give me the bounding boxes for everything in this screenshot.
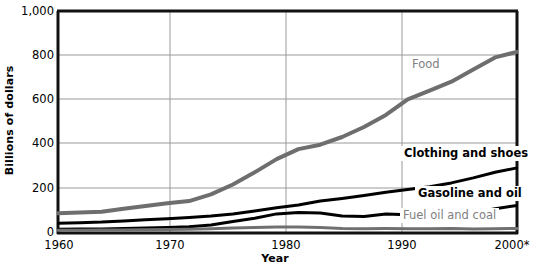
y-tick-400: 400	[8, 136, 54, 150]
series-group	[58, 52, 517, 230]
x-tick-1980: 1980	[271, 238, 300, 252]
x-axis-title-text: Year	[261, 252, 288, 265]
x-tick-1990: 1990	[387, 238, 416, 252]
series-label-food: Food	[409, 57, 443, 72]
x-tick-1970: 1970	[155, 238, 184, 252]
y-tick-200: 200	[8, 181, 54, 195]
y-axis-tick-labels: 1,000 800 600 400 200 0	[8, 0, 54, 266]
y-tick-600: 600	[8, 92, 54, 106]
series-label-fueloil: Fuel oil and coal	[400, 208, 499, 223]
x-tick-2000: 2000*	[494, 238, 529, 252]
series-label-gasoline: Gasoline and oil	[415, 186, 525, 201]
y-tick-1000: 1,000	[8, 4, 54, 18]
x-axis-title: Year	[0, 252, 536, 265]
y-tick-0: 0	[8, 225, 54, 239]
line-chart: Billions of dollars 1,000 800 600 400 20…	[0, 0, 536, 266]
x-tick-1960: 1960	[44, 238, 73, 252]
plot-area	[0, 0, 536, 266]
series-label-clothing: Clothing and shoes	[401, 146, 531, 161]
y-tick-800: 800	[8, 48, 54, 62]
